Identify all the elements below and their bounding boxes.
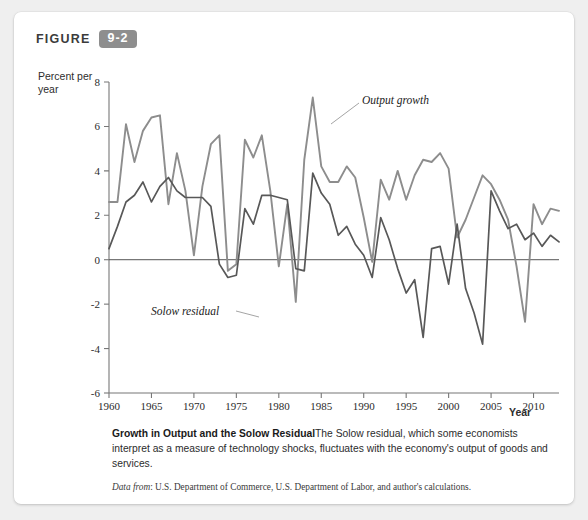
source-text: : U.S. Department of Commerce, U.S. Depa… [150,482,471,492]
series-line-solow-residual [109,173,559,344]
y-tick-label: -6 [91,387,101,399]
source-prefix: Data from [112,482,150,492]
y-tick-label: 8 [95,76,101,88]
x-tick-label: 2000 [438,400,461,412]
x-tick-label: 1980 [268,400,291,412]
figure-card: FIGURE 9-2 Percent per year Year -6-4-20… [14,12,574,504]
solow-residual-label: Solow residual [151,305,219,317]
series-line-output-growth [109,98,559,322]
caption-title: Growth in Output and the Solow Residual [112,428,315,439]
solow-residual-leader-line [236,311,259,317]
x-tick-label: 1975 [225,400,248,412]
line-chart: -6-4-20246819601965197019751980198519901… [14,12,574,422]
y-tick-label: 4 [95,165,101,177]
y-tick-label: 0 [95,254,101,266]
output-growth-leader-line [331,103,359,124]
x-tick-label: 1990 [353,400,376,412]
x-tick-label: 1965 [140,400,163,412]
output-growth-label: Output growth [362,94,429,107]
y-tick-label: -2 [91,298,100,310]
x-tick-label: 1960 [98,400,121,412]
y-tick-label: -4 [91,343,101,355]
x-tick-label: 2005 [480,400,503,412]
caption-source: Data from: U.S. Department of Commerce, … [112,482,552,492]
y-tick-label: 6 [95,120,101,132]
x-tick-label: 1985 [310,400,333,412]
x-tick-label: 1995 [395,400,418,412]
caption-block: Growth in Output and the Solow ResidualT… [112,426,552,492]
plot-area: -6-4-20246819601965197019751980198519901… [91,76,559,412]
x-tick-label: 1970 [183,400,206,412]
y-tick-label: 2 [95,209,101,221]
x-tick-label: 2010 [523,400,546,412]
caption-text: Growth in Output and the Solow ResidualT… [112,426,552,471]
